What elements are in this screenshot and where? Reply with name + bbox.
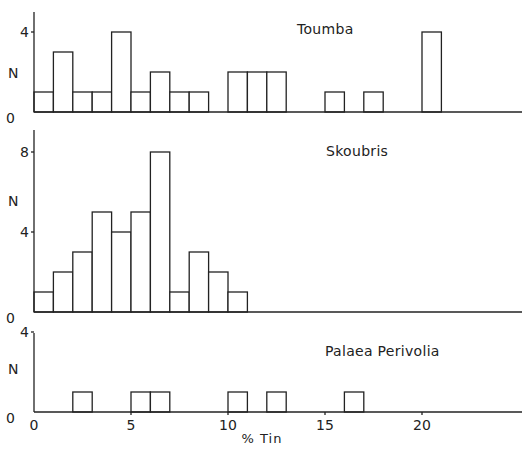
skoubris-y-tick-label: 4 xyxy=(20,224,29,240)
skoubris-bar xyxy=(92,212,111,312)
palaea-perivolia-bar xyxy=(73,392,92,412)
skoubris-bar xyxy=(73,252,92,312)
toumba-bar xyxy=(422,32,441,112)
toumba-bar xyxy=(228,72,247,112)
skoubris-y-tick-label: 8 xyxy=(20,144,29,160)
toumba-bar xyxy=(189,92,208,112)
skoubris-bar xyxy=(228,292,247,312)
toumba-bar xyxy=(131,92,150,112)
skoubris-y-tick-label: 0 xyxy=(6,310,15,326)
skoubris-bar xyxy=(150,152,169,312)
skoubris-title: Skoubris xyxy=(326,143,388,159)
x-tick-label: 15 xyxy=(316,417,334,433)
palaea-perivolia-n-label: N xyxy=(8,361,18,377)
toumba-y-tick-label: 0 xyxy=(6,110,15,126)
palaea-perivolia-title: Palaea Perivolia xyxy=(325,343,440,359)
palaea-perivolia-y-tick-label: 4 xyxy=(20,324,29,340)
toumba-bar xyxy=(34,92,53,112)
toumba-bar xyxy=(267,72,286,112)
skoubris-bar xyxy=(34,292,53,312)
toumba-bar xyxy=(73,92,92,112)
palaea-perivolia-y-tick-label: 0 xyxy=(6,410,15,426)
toumba-y-tick-label: 4 xyxy=(20,24,29,40)
skoubris-bar xyxy=(209,272,228,312)
toumba-bar xyxy=(92,92,111,112)
x-tick-label: 10 xyxy=(219,417,237,433)
toumba-n-label: N xyxy=(8,65,18,81)
toumba-bar xyxy=(364,92,383,112)
toumba-bar xyxy=(112,32,131,112)
palaea-perivolia-bar xyxy=(131,392,150,412)
toumba-bar xyxy=(247,72,266,112)
palaea-perivolia-bar xyxy=(228,392,247,412)
x-tick-label: 5 xyxy=(127,417,136,433)
toumba-bar xyxy=(170,92,189,112)
palaea-perivolia-bar xyxy=(267,392,286,412)
x-tick-label: 20 xyxy=(413,417,431,433)
skoubris-bar xyxy=(112,232,131,312)
toumba-bar xyxy=(150,72,169,112)
skoubris-bar xyxy=(170,292,189,312)
skoubris-bar xyxy=(189,252,208,312)
toumba-bar xyxy=(53,52,72,112)
x-tick-label: 0 xyxy=(30,417,39,433)
skoubris-bar xyxy=(53,272,72,312)
skoubris-bar xyxy=(131,212,150,312)
toumba-title: Toumba xyxy=(296,21,354,37)
tin-histogram-figure: 04NToumba048NSkoubris04NPalaea Perivolia… xyxy=(0,0,531,460)
toumba-bar xyxy=(325,92,344,112)
skoubris-n-label: N xyxy=(8,193,18,209)
palaea-perivolia-bar xyxy=(150,392,169,412)
palaea-perivolia-bar xyxy=(344,392,363,412)
x-axis-title: % Tin xyxy=(242,431,283,446)
